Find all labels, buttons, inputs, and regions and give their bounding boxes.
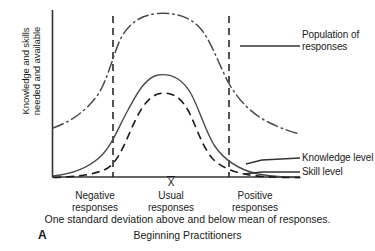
annotation-knowledge-level: Knowledge level (302, 152, 373, 164)
caption-standard-deviation: One standard deviation above and below m… (0, 213, 375, 225)
curve-knowledge-level (53, 75, 300, 178)
annotation-population-line1: Population of (302, 29, 359, 41)
annotation-skill-level: Skill level (302, 166, 343, 178)
caption-beginning-practitioners: Beginning Practitioners (0, 229, 375, 241)
x-category-usual-line2: responses (126, 202, 216, 214)
y-axis-label: Knowledge and skills needed and availabl… (20, 0, 42, 146)
curve-population-of-responses (53, 13, 300, 134)
x-category-usual-line1: Usual (126, 190, 216, 202)
leader-line-knowledge (246, 158, 300, 164)
mean-symbol: X (151, 176, 191, 188)
annotation-population-line2: responses (302, 41, 359, 53)
x-category-usual: Usual responses (126, 190, 216, 213)
x-category-positive: Positive responses (210, 190, 300, 213)
x-category-positive-line1: Positive (210, 190, 300, 202)
y-axis-label-line2: needed and available (31, 0, 42, 146)
x-category-positive-line2: responses (210, 202, 300, 214)
panel-letter: A (38, 228, 47, 242)
mean-symbol-text: X (167, 176, 176, 188)
annotation-population-of-responses: Population of responses (302, 29, 359, 52)
y-axis-label-line1: Knowledge and skills (20, 0, 31, 146)
